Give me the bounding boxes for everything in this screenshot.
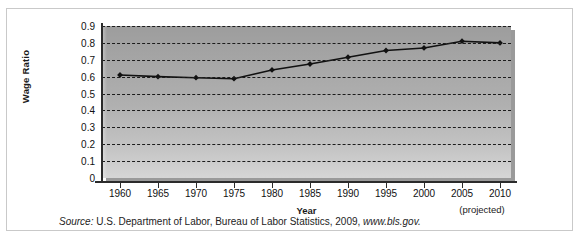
data-point-marker — [269, 67, 275, 73]
gridline — [102, 26, 511, 27]
chart-area: Wage Ratio 0.90.80.70.60.50.40.30.20.10 … — [7, 9, 574, 199]
gridline — [102, 127, 511, 128]
data-point-marker — [307, 61, 313, 67]
y-axis-line — [101, 23, 103, 183]
source-url: www.bls.gov. — [363, 216, 421, 227]
y-tick-label: 0.6 — [55, 71, 95, 82]
source-text: U.S. Department of Labor, Bureau of Labo… — [93, 216, 363, 227]
projected-annotation: (projected) — [427, 204, 537, 215]
data-point-marker — [193, 75, 199, 81]
y-axis-tick-labels: 0.90.80.70.60.50.40.30.20.10 — [55, 21, 95, 187]
y-tick-label: 0.7 — [55, 54, 95, 65]
gridline — [102, 110, 511, 111]
y-tick-label: 0.9 — [55, 21, 95, 32]
y-tick-label: 0.1 — [55, 156, 95, 167]
gridline — [102, 161, 511, 162]
gridline — [102, 60, 511, 61]
y-tick-label: 0 — [55, 173, 95, 184]
y-axis-title: Wage Ratio — [20, 37, 31, 117]
y-tick-label: 0.2 — [55, 139, 95, 150]
gridline — [102, 77, 511, 78]
y-tick-label: 0.3 — [55, 122, 95, 133]
gridline — [102, 94, 511, 95]
gridline — [102, 43, 511, 44]
plot-area — [102, 26, 511, 178]
y-tick-label: 0.4 — [55, 105, 95, 116]
x-tick-label: 2010 — [477, 188, 523, 199]
y-tick-label: 0.8 — [55, 37, 95, 48]
source-caption: Source: U.S. Department of Labor, Bureau… — [59, 216, 421, 227]
data-series-line — [102, 26, 511, 178]
figure-container: Wage Ratio 0.90.80.70.60.50.40.30.20.10 … — [6, 8, 573, 231]
y-tick-label: 0.5 — [55, 88, 95, 99]
data-point-marker — [383, 48, 389, 54]
data-point-marker — [421, 45, 427, 51]
source-label: Source: — [59, 216, 93, 227]
gridline — [102, 144, 511, 145]
